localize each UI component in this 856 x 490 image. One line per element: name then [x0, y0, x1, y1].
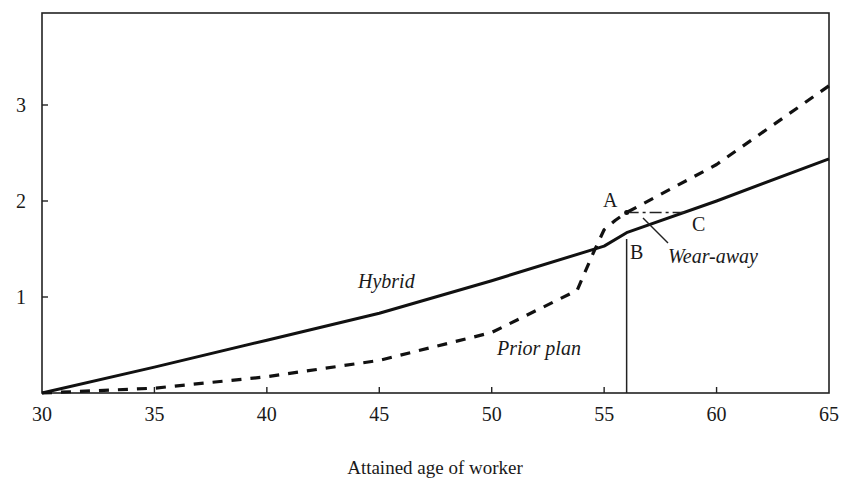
y-tick-label: 3: [16, 94, 26, 116]
series-lines: [42, 86, 829, 393]
chart-canvas: 3035404550556065 123 Hybrid Prior plan A…: [0, 0, 856, 490]
point-a-label: A: [603, 189, 618, 211]
point-a-marker: [624, 210, 629, 215]
x-tick-label: 30: [32, 403, 52, 425]
prior-plan-line: [42, 86, 829, 393]
x-tick-label: 40: [257, 403, 277, 425]
point-c-label: C: [692, 213, 705, 235]
prior-plan-label: Prior plan: [496, 337, 581, 360]
point-b-label: B: [630, 241, 643, 263]
y-tick-label: 1: [16, 286, 26, 308]
hybrid-label: Hybrid: [357, 270, 416, 293]
x-tick-label: 65: [819, 403, 839, 425]
x-tick-label: 35: [144, 403, 164, 425]
hybrid-line: [42, 159, 829, 393]
reference-lines: [624, 210, 687, 393]
x-axis-title: Attained age of worker: [347, 457, 523, 478]
wear-away-label: Wear-away: [668, 245, 758, 268]
x-tick-label: 60: [707, 403, 727, 425]
y-tick-label: 2: [16, 190, 26, 212]
x-tick-label: 45: [369, 403, 389, 425]
y-axis-ticks: 123: [16, 94, 48, 308]
x-tick-label: 50: [482, 403, 502, 425]
x-tick-label: 55: [594, 403, 614, 425]
